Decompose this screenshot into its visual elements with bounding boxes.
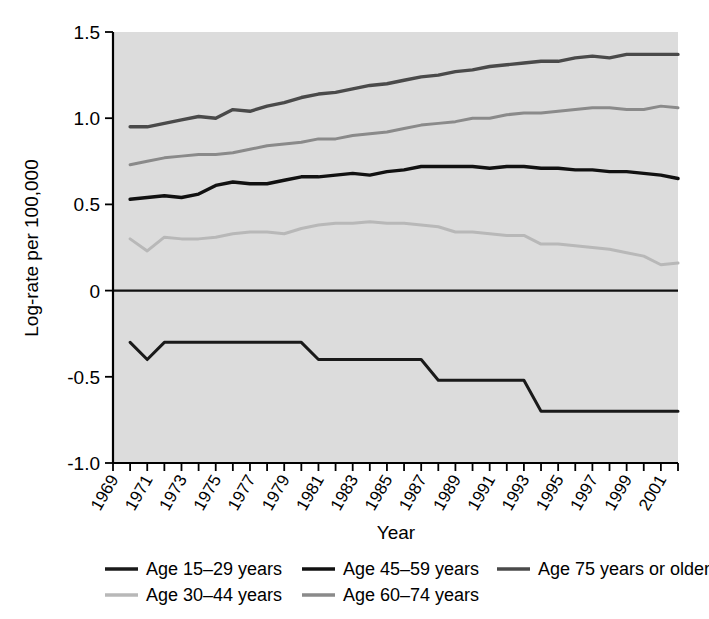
y-tick-label: -1.0 [67, 453, 100, 474]
legend-label-1: Age 30–44 years [146, 585, 282, 605]
x-tick-label: 1969 [87, 472, 122, 514]
line-chart: -1.0-0.500.51.01.5 196919711973197519771… [0, 0, 709, 619]
x-tick-label: 1985 [361, 472, 396, 514]
x-tick-label: 1989 [429, 472, 464, 514]
x-tick-label: 1979 [258, 472, 293, 514]
x-tick-label: 1997 [566, 472, 601, 514]
x-tick-label: 1991 [464, 472, 499, 514]
x-tick-label: 1973 [156, 472, 191, 514]
x-tick-label: 1993 [498, 472, 533, 514]
legend-label-3: Age 60–74 years [343, 585, 479, 605]
y-tick-label: 0.5 [74, 194, 100, 215]
legend-label-4: Age 75 years or older [538, 559, 709, 579]
x-tick-label: 1977 [224, 472, 259, 514]
x-tick-label: 1999 [601, 472, 636, 514]
chart-legend: Age 15–29 yearsAge 30–44 yearsAge 45–59 … [105, 559, 709, 605]
x-tick-label: 1983 [327, 472, 362, 514]
x-tick-label: 1975 [190, 472, 225, 514]
y-tick-label: 1.5 [74, 22, 100, 43]
x-tick-label: 1981 [293, 472, 328, 514]
x-axis-title: Year [377, 522, 416, 543]
y-axis-title: Log-rate per 100,000 [21, 159, 42, 336]
x-tick-label: 1971 [121, 472, 156, 514]
figure-container: -1.0-0.500.51.01.5 196919711973197519771… [0, 0, 709, 619]
x-tick-group: 1969197119731975197719791981198319851987… [87, 463, 678, 514]
y-tick-label: -0.5 [67, 367, 100, 388]
legend-label-0: Age 15–29 years [146, 559, 282, 579]
x-tick-label: 1995 [532, 472, 567, 514]
legend-label-2: Age 45–59 years [343, 559, 479, 579]
y-tick-label: 1.0 [74, 108, 100, 129]
y-tick-label: 0 [89, 281, 100, 302]
x-tick-label: 2001 [635, 472, 670, 514]
y-tick-group: -1.0-0.500.51.01.5 [67, 22, 113, 474]
x-tick-label: 1987 [395, 472, 430, 514]
